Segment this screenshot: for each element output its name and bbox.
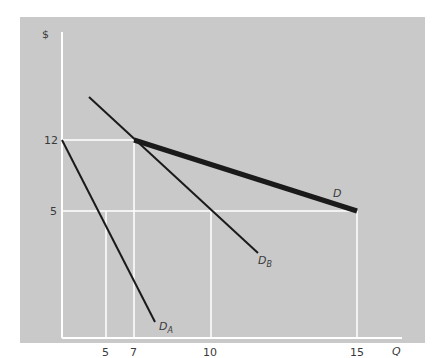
chart-panel <box>20 17 425 343</box>
y-tick-5: 5 <box>50 205 57 218</box>
x-axis-label: Q <box>392 345 401 358</box>
x-tick-10: 10 <box>203 346 217 358</box>
demand-chart: $ Q 12 5 5 7 10 15 DA DB D <box>0 0 441 358</box>
x-tick-7: 7 <box>130 346 137 358</box>
y-axis-label: $ <box>42 28 49 41</box>
x-tick-15: 15 <box>350 346 364 358</box>
x-tick-5: 5 <box>102 346 109 358</box>
y-tick-12: 12 <box>44 134 58 147</box>
label-d: D <box>333 187 341 200</box>
